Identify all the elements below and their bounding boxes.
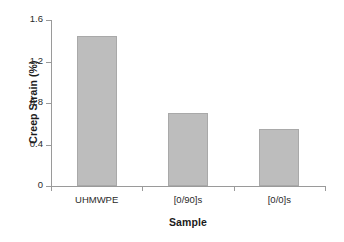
bar-[0/0]s (259, 129, 299, 186)
y-tick-label: 0.4 (30, 138, 43, 149)
y-tick: 0.8 (46, 103, 51, 104)
x-tick-label: [0/90]s (142, 194, 234, 205)
x-tick (142, 187, 143, 191)
y-tick-label: 1.6 (30, 13, 43, 24)
y-tick-label: 0.8 (30, 96, 43, 107)
y-tick-label: 0 (38, 179, 43, 190)
bar-chart-figure: Creep Strain (%) Sample 00.40.81.21.6 UH… (0, 0, 344, 242)
x-tick (51, 187, 52, 191)
bar-UHMWPE (77, 36, 117, 186)
x-axis-title: Sample (51, 216, 325, 228)
y-tick-label: 1.2 (30, 55, 43, 66)
x-tick-label: UHMWPE (51, 194, 143, 205)
plot-area: 00.40.81.21.6 UHMWPE[0/90]s[0/0]s (51, 20, 325, 186)
bar-[0/90]s (168, 113, 208, 186)
x-tick-label: [0/0]s (233, 194, 325, 205)
x-tick (325, 187, 326, 191)
x-tick (234, 187, 235, 191)
y-tick: 0.4 (46, 145, 51, 146)
y-tick: 1.2 (46, 62, 51, 63)
y-axis-line (51, 20, 52, 187)
y-tick: 1.6 (46, 20, 51, 21)
x-axis-line (51, 186, 326, 187)
